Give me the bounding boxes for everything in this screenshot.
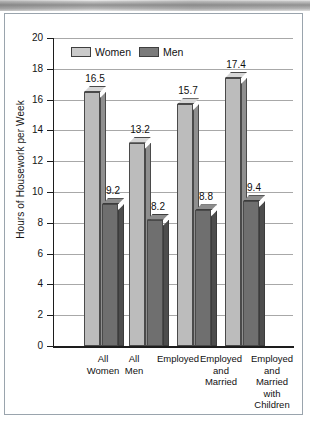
bar-front-face <box>243 201 259 346</box>
y-axis-tick-label: 2 <box>19 309 43 320</box>
plot-wrapper: Hours of Housework per Week 201816141210… <box>5 14 304 416</box>
bar-women <box>129 143 145 346</box>
y-axis-tick-label: 4 <box>19 278 43 289</box>
y-axis-tick-label: 16 <box>19 94 43 105</box>
y-axis-tick-label: 0 <box>19 340 43 351</box>
bar-value-label: 16.5 <box>80 73 110 84</box>
y-axis-tick-label: 8 <box>19 217 43 228</box>
bar-men <box>102 204 118 346</box>
bar-front-face <box>225 78 241 346</box>
bar-men <box>195 210 211 346</box>
bar-value-label: 9.4 <box>239 182 269 193</box>
bar-value-label: 8.8 <box>191 191 221 202</box>
bar-front-face <box>102 204 118 346</box>
bar-value-label: 17.4 <box>221 59 251 70</box>
bar-front-face <box>84 92 100 346</box>
bar-value-label: 8.2 <box>143 201 173 212</box>
bar-side-face <box>163 220 169 346</box>
bar-top-face <box>177 98 199 104</box>
bar-value-label: 13.2 <box>125 124 155 135</box>
y-axis-tick-label: 12 <box>19 155 43 166</box>
bar-front-face <box>129 143 145 346</box>
bar-front-face <box>195 210 211 346</box>
x-axis-category-label: Employed and Married with Children <box>241 353 303 411</box>
bar-men <box>147 220 163 346</box>
scan-artifact-band <box>0 0 310 11</box>
bar-front-face <box>177 104 193 346</box>
y-axis-tick-label: 18 <box>19 63 43 74</box>
x-axis-line <box>53 346 294 348</box>
bar-value-label: 15.7 <box>173 85 203 96</box>
bar-men <box>243 201 259 346</box>
bar-side-face <box>211 210 217 346</box>
bar-value-label: 9.2 <box>98 185 128 196</box>
bar-top-face <box>84 86 106 92</box>
bar-women <box>225 78 241 346</box>
bar-top-face <box>225 72 247 78</box>
bar-women <box>84 92 100 346</box>
y-axis-tick-label: 10 <box>19 186 43 197</box>
bar-women <box>177 104 193 346</box>
chart-figure-box: Hours of Housework per Week 201816141210… <box>4 13 303 415</box>
y-axis-tick-label: 20 <box>19 32 43 43</box>
bar-top-face <box>129 137 151 143</box>
bar-front-face <box>147 220 163 346</box>
bar-side-face <box>259 201 265 346</box>
y-axis-tick-label: 14 <box>19 124 43 135</box>
bar-side-face <box>118 204 124 346</box>
y-axis-tick-label: 6 <box>19 248 43 259</box>
